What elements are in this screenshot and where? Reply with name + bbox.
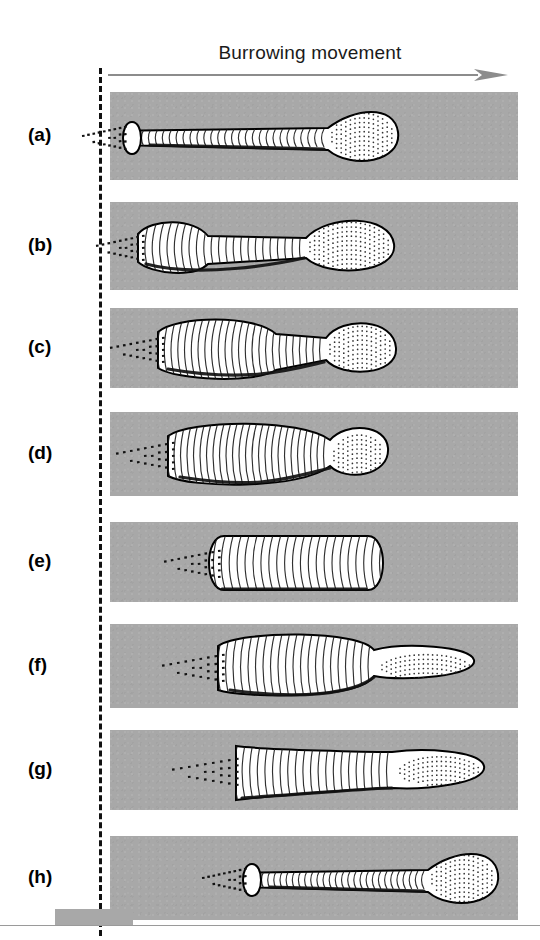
sediment-band (110, 624, 518, 708)
worm-diagram (110, 624, 518, 708)
sediment-band (110, 836, 518, 920)
stage-label-f: (f) (28, 654, 82, 676)
worm-diagram (110, 92, 518, 180)
dashed-reference-line (99, 68, 102, 936)
stage-label-c: (c) (28, 336, 82, 358)
sediment-band (110, 730, 518, 810)
stage-label-d: (d) (28, 442, 82, 464)
stage-label-h: (h) (28, 866, 82, 888)
sediment-band (110, 202, 518, 290)
stage-label-g: (g) (28, 758, 82, 780)
sediment-band (110, 522, 518, 602)
stage-label-e: (e) (28, 550, 82, 572)
worm-diagram (110, 412, 518, 496)
burrowing-figure: Burrowing movement Proboscis (a)(b)(c)(d… (0, 0, 540, 940)
worm-diagram (110, 836, 518, 920)
worm-diagram (110, 202, 518, 290)
sediment-band (110, 92, 518, 180)
sediment-band (110, 308, 518, 388)
scale-bar (55, 909, 133, 926)
stage-label-b: (b) (28, 234, 82, 256)
sediment-band (110, 412, 518, 496)
worm-diagram (110, 730, 518, 810)
worm-diagram (110, 522, 518, 602)
horizontal-rule (0, 925, 540, 926)
figure-title: Burrowing movement (110, 42, 510, 64)
worm-diagram (110, 308, 518, 388)
right-arrow-icon (106, 68, 510, 82)
stage-label-a: (a) (28, 124, 82, 146)
